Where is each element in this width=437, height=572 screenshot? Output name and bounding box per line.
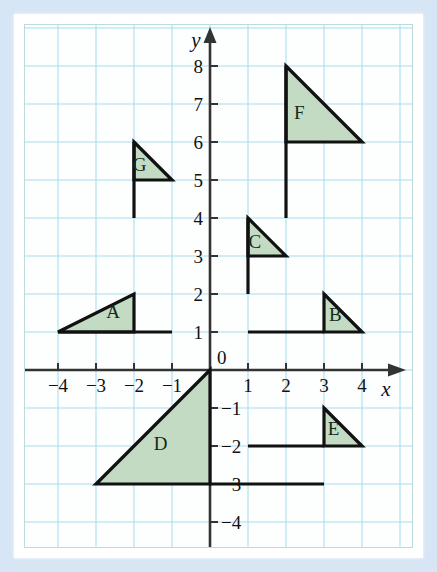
origin-label: 0 (217, 347, 227, 368)
flag-g: G (133, 142, 172, 218)
flag-a: A (58, 294, 172, 332)
y-tick-label: 5 (194, 170, 204, 191)
y-tick-label: 4 (194, 208, 204, 229)
flag-label-f: F (294, 102, 305, 123)
flag-c: C (248, 218, 286, 294)
y-tick-label: 2 (194, 284, 204, 305)
x-tick-label: −1 (162, 375, 182, 396)
y-tick-label: −1 (221, 398, 241, 419)
y-tick-label: −4 (221, 512, 242, 533)
grid-lines (25, 25, 412, 547)
coordinate-graph: −4−3−2−11234−4−3−2−1123456780 ABCDEFG xy (25, 25, 412, 547)
flag-label-a: A (106, 301, 120, 322)
flag-triangle-d (96, 370, 210, 484)
x-tick-label: 3 (319, 375, 329, 396)
flag-label-e: E (328, 418, 340, 439)
y-axis-label: y (189, 28, 201, 52)
x-tick-label: −3 (86, 375, 106, 396)
y-tick-label: 8 (194, 56, 204, 77)
x-tick-label: 4 (357, 375, 367, 396)
axis-lines (25, 27, 406, 547)
x-axis-label: x (380, 377, 391, 401)
y-tick-label: 3 (194, 246, 204, 267)
x-tick-label: 2 (281, 375, 291, 396)
paper-sheet: −4−3−2−11234−4−3−2−1123456780 ABCDEFG xy (14, 14, 423, 558)
flag-label-d: D (154, 433, 168, 454)
flag-e: E (248, 408, 362, 446)
flag-b: B (248, 294, 362, 332)
y-tick-label: −2 (221, 436, 241, 457)
flag-label-b: B (329, 304, 342, 325)
flag-label-g: G (133, 154, 147, 175)
flag-label-c: C (248, 231, 261, 252)
x-tick-label: 1 (243, 375, 253, 396)
y-tick-label: 6 (194, 132, 204, 153)
y-tick-label: 7 (194, 94, 204, 115)
x-tick-label: −4 (48, 375, 69, 396)
graph-panel: −4−3−2−11234−4−3−2−1123456780 ABCDEFG xy (24, 24, 413, 548)
x-tick-label: −2 (124, 375, 144, 396)
outer-frame: −4−3−2−11234−4−3−2−1123456780 ABCDEFG xy (0, 0, 437, 572)
y-tick-label: 1 (194, 322, 204, 343)
